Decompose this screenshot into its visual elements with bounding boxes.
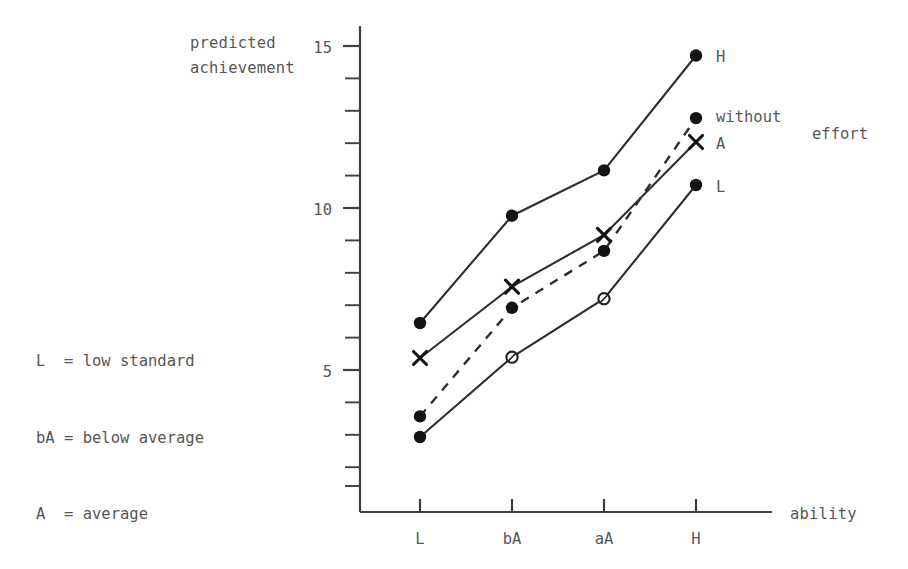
data-point-l-l xyxy=(414,431,426,443)
legend-key: L = low standard bA = below average A = … xyxy=(36,298,279,569)
y-tick-label-10: 10 xyxy=(296,198,332,222)
y-axis-title: predictedachievement xyxy=(190,31,295,81)
series-label-h: H xyxy=(716,45,725,69)
x-tick-label-aa: aA xyxy=(580,527,628,551)
y-axis-minor-ticks xyxy=(345,78,360,486)
y-tick-label-5: 5 xyxy=(296,360,332,384)
data-point-h-ba xyxy=(506,210,518,222)
data-point-l-h xyxy=(690,179,702,191)
series-group-label-effort: effort xyxy=(812,122,868,146)
y-tick-label-15: 15 xyxy=(296,36,332,60)
series-l xyxy=(414,179,702,443)
data-point-without-l xyxy=(414,410,426,422)
x-axis-ticks xyxy=(420,499,696,512)
data-point-h-aa xyxy=(598,164,610,176)
y-axis-title-line1: predicted xyxy=(190,34,276,52)
x-tick-label-l: L xyxy=(396,527,444,551)
data-point-a-h xyxy=(690,136,703,149)
y-axis-title-line2: achievement xyxy=(190,59,295,77)
series-label-l: L xyxy=(716,175,725,199)
data-point-without-h xyxy=(690,112,702,124)
chart-figure: predictedachievement 15 10 5 L bA aA H a… xyxy=(0,0,908,569)
x-tick-label-h: H xyxy=(672,527,720,551)
series-label-a: A xyxy=(716,132,725,156)
data-point-a-ba xyxy=(506,280,519,293)
data-point-h-l xyxy=(414,317,426,329)
data-point-without-ba xyxy=(506,302,518,314)
series-without xyxy=(414,112,702,423)
data-point-h-h xyxy=(690,49,702,61)
data-point-a-l xyxy=(414,352,427,365)
data-point-without-aa xyxy=(598,245,610,257)
x-axis-title: ability xyxy=(790,502,857,526)
x-tick-label-ba: bA xyxy=(488,527,536,551)
legend-line-a: A = average xyxy=(36,502,279,528)
series-h xyxy=(414,49,702,329)
legend-line-ba: bA = below average xyxy=(36,426,279,452)
series-label-without: without xyxy=(716,105,781,129)
y-axis-major-ticks xyxy=(343,46,360,370)
data-point-a-aa xyxy=(598,228,611,241)
legend-line-l: L = low standard xyxy=(36,349,279,375)
